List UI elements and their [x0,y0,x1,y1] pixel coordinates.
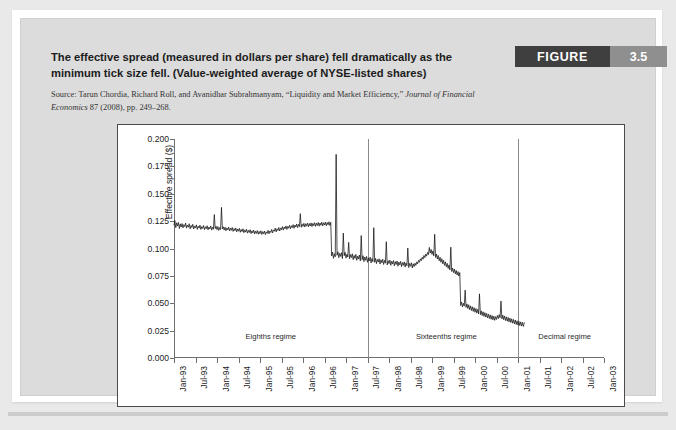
x-tick-mark [239,358,240,363]
figure-source: Source: Tarun Chordia, Richard Roll, and… [51,89,503,114]
y-tick-label: 0.075 [147,271,169,281]
x-tick-mark [346,358,347,363]
x-tick-label: Jan-94 [221,366,231,391]
x-tick-label: Jan-98 [393,366,403,391]
y-tick-label: 0.100 [147,244,169,254]
y-tick-label: 0.175 [147,161,169,171]
figure-badge-number: 3.5 [610,46,667,67]
x-tick-mark [497,358,498,363]
source-suffix-text: 87 (2008), pp. 249–268. [88,103,171,112]
y-tick-label: 0.200 [147,134,169,144]
x-tick-mark [583,358,584,363]
figure-page: The effective spread (measured in dollar… [0,0,676,430]
effective-spread-line [174,154,524,326]
series-line-chart [174,139,604,358]
x-tick-mark [196,358,197,363]
y-tick-label: 0.150 [147,189,169,199]
x-tick-mark [518,358,519,363]
plot-frame: 0.0000.0250.0500.0750.1000.1250.1500.175… [174,139,604,358]
x-tick-mark [540,358,541,363]
chart-container: Effective spread ($) 0.0000.0250.0500.07… [117,124,625,407]
x-tick-label: Jul-96 [328,366,338,389]
x-tick-mark [282,358,283,363]
x-tick-label: Jul-93 [199,366,209,389]
x-tick-mark [411,358,412,363]
x-tick-label: Jul-02 [586,366,596,389]
figure-panel: The effective spread (measured in dollar… [20,18,656,396]
x-tick-mark [325,358,326,363]
x-tick-label: Jan-00 [479,366,489,391]
x-tick-label: Jul-95 [285,366,295,389]
x-tick-mark [432,358,433,363]
x-tick-mark [475,358,476,363]
y-tick-label: 0.050 [147,298,169,308]
x-tick-label: Jan-01 [522,366,532,391]
y-tick-label: 0.025 [147,326,169,336]
x-tick-label: Jan-96 [307,366,317,391]
y-tick-label: 0.125 [147,216,169,226]
x-tick-label: Jul-94 [242,366,252,389]
x-tick-mark [260,358,261,363]
x-tick-label: Jul-01 [543,366,553,389]
page-bottom-rule [8,412,668,416]
figure-badge: FIGURE 3.5 [515,46,667,67]
x-tick-mark [604,358,605,363]
x-tick-mark [174,358,175,363]
figure-badge-word: FIGURE [515,46,610,67]
x-tick-label: Jul-00 [500,366,510,389]
x-tick-mark [217,358,218,363]
x-tick-label: Jan-97 [350,366,360,391]
source-prefix-text: Source: Tarun Chordia, Richard Roll, and… [51,90,405,99]
x-tick-label: Jan-99 [436,366,446,391]
x-tick-label: Jan-02 [565,366,575,391]
x-tick-label: Jan-95 [264,366,274,391]
x-tick-mark [561,358,562,363]
x-tick-label: Jul-99 [457,366,467,389]
x-tick-label: Jan-03 [608,366,618,391]
x-tick-mark [454,358,455,363]
x-tick-mark [389,358,390,363]
x-tick-label: Jan-93 [178,366,188,391]
x-tick-label: Jul-98 [414,366,424,389]
x-tick-mark [368,358,369,363]
y-tick-label: 0.000 [147,353,169,363]
x-tick-mark [303,358,304,363]
plot-area: 0.0000.0250.0500.0750.1000.1250.1500.175… [174,139,604,358]
x-tick-label: Jul-97 [371,366,381,389]
figure-title: The effective spread (measured in dollar… [51,49,503,81]
